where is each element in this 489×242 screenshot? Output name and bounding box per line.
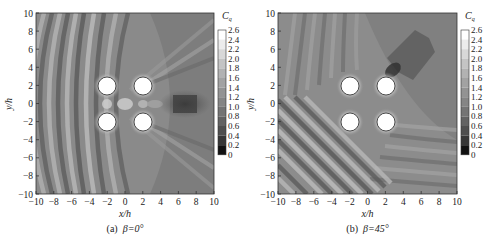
y-tick-labels-a: 10 8 6 4 2 0 −2 −4 −6 −8 −10 (18, 9, 33, 200)
svg-text:2: 2 (28, 81, 33, 91)
cylinder-icon (341, 113, 359, 131)
svg-text:0.6: 0.6 (471, 121, 483, 131)
svg-text:0: 0 (228, 150, 233, 160)
cylinder-icon (134, 77, 152, 95)
svg-text:10: 10 (266, 9, 276, 19)
field-b (278, 13, 457, 194)
svg-text:−4: −4 (84, 197, 94, 207)
svg-text:2.6: 2.6 (471, 25, 483, 35)
svg-text:1.4: 1.4 (228, 83, 240, 93)
cylinder-icon (341, 77, 359, 95)
svg-text:−6: −6 (67, 197, 77, 207)
svg-text:2.0: 2.0 (228, 54, 240, 64)
svg-text:2.4: 2.4 (228, 35, 240, 45)
svg-text:−4: −4 (23, 135, 33, 145)
svg-text:−2: −2 (345, 197, 355, 207)
svg-text:1.0: 1.0 (228, 102, 240, 112)
svg-text:1.8: 1.8 (471, 63, 483, 73)
svg-text:4: 4 (401, 197, 406, 207)
svg-text:0.8: 0.8 (471, 111, 483, 121)
contour-plot-a: 10 8 6 4 2 0 −2 −4 −6 −8 −10 −10 −8 −6 −… (0, 0, 244, 242)
figure-a: 10 8 6 4 2 0 −2 −4 −6 −8 −10 −10 −8 −6 −… (0, 0, 244, 242)
svg-text:1.4: 1.4 (471, 83, 483, 93)
svg-text:2.0: 2.0 (471, 54, 483, 64)
svg-text:6: 6 (419, 197, 424, 207)
svg-text:0: 0 (471, 150, 476, 160)
svg-text:2: 2 (270, 81, 275, 91)
svg-text:1.2: 1.2 (471, 92, 482, 102)
colorbar-b: Cq 2.6 2.4 2.2 2.0 1.8 1.6 1.4 1.2 (461, 10, 483, 160)
field-a (32, 13, 214, 194)
svg-text:8: 8 (194, 197, 199, 207)
svg-text:1.8: 1.8 (228, 63, 240, 73)
svg-text:10: 10 (452, 197, 462, 207)
colorbar-label-b: Cq (465, 10, 475, 22)
cylinder-icon (98, 77, 116, 95)
svg-text:6: 6 (270, 45, 275, 55)
caption-b: (b)β=45° (346, 223, 388, 235)
svg-text:0: 0 (365, 197, 370, 207)
svg-text:−8: −8 (265, 171, 275, 181)
svg-text:−6: −6 (23, 153, 33, 163)
figure-b: 10 8 6 4 2 0 −2 −4 −6 −8 −10 −10 −8 −6 −… (245, 0, 489, 242)
svg-text:2.6: 2.6 (228, 25, 240, 35)
svg-text:10: 10 (209, 197, 219, 207)
svg-text:1.6: 1.6 (471, 73, 483, 83)
y-tick-labels-b: 10 8 6 4 2 0 −2 −4 −6 −8 −10 (260, 9, 275, 200)
svg-text:6: 6 (28, 45, 33, 55)
colorbar-ticks-b: 2.6 2.4 2.2 2.0 1.8 1.6 1.4 1.2 1.0 0.8 … (471, 25, 483, 160)
colorbar-swatches-a (218, 30, 226, 155)
svg-text:1.0: 1.0 (471, 102, 483, 112)
x-axis-label-a: x/h (118, 208, 131, 219)
svg-text:−6: −6 (309, 197, 319, 207)
svg-text:4: 4 (28, 63, 33, 73)
svg-text:4: 4 (270, 63, 275, 73)
svg-text:2.4: 2.4 (471, 35, 483, 45)
cylinder-icon (377, 113, 395, 131)
svg-text:1.6: 1.6 (228, 73, 240, 83)
svg-text:2: 2 (140, 197, 145, 207)
x-tick-labels-b: −10 −8 −6 −4 −2 0 2 4 6 8 10 (271, 197, 462, 207)
cylinder-icon (134, 113, 152, 131)
svg-text:0.4: 0.4 (228, 131, 240, 141)
y-axis-label-a: y/h (3, 98, 14, 111)
svg-text:−8: −8 (49, 197, 59, 207)
svg-text:−6: −6 (265, 153, 275, 163)
colorbar-swatches-b (461, 30, 469, 155)
svg-text:−4: −4 (327, 197, 337, 207)
svg-text:2: 2 (383, 197, 388, 207)
svg-text:2.2: 2.2 (228, 44, 239, 54)
cylinder-icon (98, 113, 116, 131)
svg-text:0.4: 0.4 (471, 131, 483, 141)
svg-text:0.8: 0.8 (228, 111, 240, 121)
svg-text:0.2: 0.2 (228, 140, 239, 150)
svg-text:8: 8 (270, 27, 275, 37)
svg-text:0: 0 (28, 99, 33, 109)
x-tick-labels-a: −10 −8 −6 −4 −2 0 2 4 6 8 10 (29, 197, 219, 207)
y-axis-label-b: y/h (245, 98, 256, 111)
svg-text:2.2: 2.2 (471, 44, 482, 54)
svg-text:0: 0 (270, 99, 275, 109)
svg-text:−2: −2 (102, 197, 112, 207)
svg-text:−2: −2 (23, 117, 33, 127)
x-axis-label-b: x/h (360, 208, 373, 219)
svg-text:0.6: 0.6 (228, 121, 240, 131)
svg-text:8: 8 (437, 197, 442, 207)
caption-a: (a)β=0° (107, 223, 144, 235)
colorbar-ticks-a: 2.6 2.4 2.2 2.0 1.8 1.6 1.4 1.2 1.0 0.8 … (228, 25, 240, 160)
svg-text:8: 8 (28, 27, 33, 37)
svg-text:−8: −8 (23, 171, 33, 181)
svg-text:0.2: 0.2 (471, 140, 482, 150)
svg-text:4: 4 (158, 197, 163, 207)
svg-text:−10: −10 (29, 197, 44, 207)
svg-text:−2: −2 (265, 117, 275, 127)
svg-text:6: 6 (176, 197, 181, 207)
svg-text:1.2: 1.2 (228, 92, 239, 102)
cylinder-icon (377, 77, 395, 95)
svg-text:10: 10 (24, 9, 34, 19)
colorbar-label-a: Cq (222, 10, 232, 22)
svg-text:−8: −8 (291, 197, 301, 207)
svg-text:−4: −4 (265, 135, 275, 145)
svg-text:0: 0 (123, 197, 128, 207)
contour-plot-b: 10 8 6 4 2 0 −2 −4 −6 −8 −10 −10 −8 −6 −… (245, 0, 489, 242)
